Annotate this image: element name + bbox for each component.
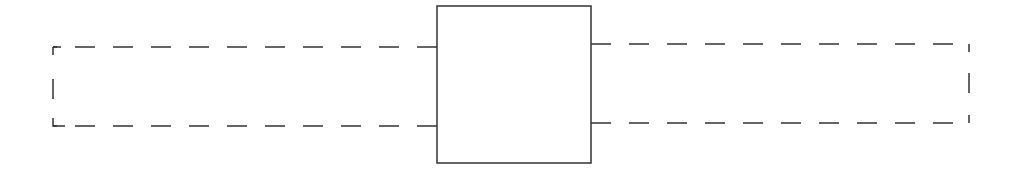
left-dashed-left-edge (53, 47, 65, 126)
diagram-canvas (0, 0, 1013, 173)
right-dashed-outline (591, 44, 969, 123)
left-dashed-outline (53, 47, 437, 126)
center-box (437, 6, 591, 163)
